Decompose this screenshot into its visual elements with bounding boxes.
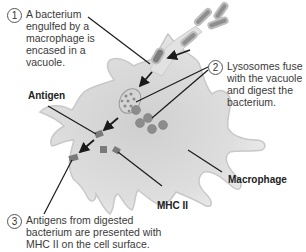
step-3-badge: 3 bbox=[7, 214, 22, 229]
step-1-badge: 1 bbox=[7, 8, 22, 23]
step-2-text: Lysosomes fuse with the vacuole and dige… bbox=[227, 60, 306, 108]
antigen-label: Antigen bbox=[28, 90, 65, 101]
step-1: 1 A bacterium engulfed by a macrophage i… bbox=[7, 8, 99, 68]
step-2-badge: 2 bbox=[208, 60, 223, 75]
step-3-text: Antigens from digested bacterium are pre… bbox=[26, 214, 167, 250]
step-1-text: A bacterium engulfed by a macrophage is … bbox=[26, 8, 99, 68]
step-3: 3 Antigens from digested bacterium are p… bbox=[7, 214, 167, 250]
macrophage-label: Macrophage bbox=[228, 174, 287, 185]
mhc-ii-label: MHC II bbox=[157, 200, 188, 211]
step-2: 2 Lysosomes fuse with the vacuole and di… bbox=[208, 60, 306, 108]
